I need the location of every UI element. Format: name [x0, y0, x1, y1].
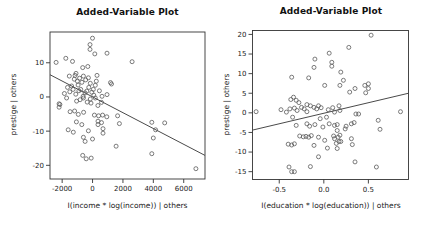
- scatter-point: [353, 160, 357, 164]
- x-tick-label: -0.5: [272, 186, 286, 194]
- scatter-point: [369, 33, 373, 37]
- scatter-point: [71, 130, 75, 134]
- scatter-point: [105, 115, 109, 119]
- y-tick-label: -10: [235, 148, 246, 156]
- scatter-point: [86, 76, 90, 80]
- scatter-point: [366, 82, 370, 86]
- scatter-point: [305, 110, 309, 114]
- y-tick-label: -20: [33, 162, 44, 170]
- scatter-point: [312, 65, 316, 69]
- scatter-point: [84, 157, 88, 161]
- y-tick-label: 5: [242, 90, 246, 98]
- scatter-point: [332, 134, 336, 138]
- scatter-point: [292, 170, 296, 174]
- scatter-point: [335, 147, 339, 151]
- scatter-point: [94, 79, 98, 83]
- scatter-point: [347, 45, 351, 49]
- x-tick-label: 0.5: [363, 186, 374, 194]
- scatter-point: [399, 110, 403, 114]
- scatter-point: [333, 137, 337, 141]
- scatter-point: [307, 76, 311, 80]
- x-tick-label: -2000: [52, 185, 72, 193]
- x-tick-label: 4000: [144, 185, 162, 193]
- x-tick-label: 0.0: [318, 186, 329, 194]
- scatter-point: [89, 156, 93, 160]
- left-x-axis-label: I(income * log(income)) | others: [50, 201, 205, 210]
- scatter-point: [318, 117, 322, 121]
- scatter-point: [313, 57, 317, 61]
- scatter-point: [327, 122, 331, 126]
- scatter-point: [378, 127, 382, 131]
- scatter-point: [83, 139, 87, 143]
- scatter-point: [150, 152, 154, 156]
- scatter-point: [76, 112, 80, 116]
- scatter-point: [357, 112, 361, 116]
- scatter-point: [294, 98, 298, 102]
- scatter-point: [317, 135, 321, 139]
- scatter-point: [330, 60, 334, 64]
- added-variable-plots-figure: -20000200040006000-20-10010-0.50.00.5-15…: [0, 0, 426, 232]
- scatter-point: [312, 143, 316, 147]
- scatter-point: [254, 110, 258, 114]
- scatter-point: [97, 89, 101, 93]
- left-chart-title: Added-Variable Plot: [50, 7, 205, 17]
- scatter-point: [105, 93, 109, 97]
- scatter-point: [297, 101, 301, 105]
- right-avplot: -0.50.00.5-15-10-505101520: [235, 31, 408, 194]
- scatter-point: [321, 125, 325, 129]
- scatter-point: [81, 153, 85, 157]
- y-tick-label: 10: [238, 70, 247, 78]
- scatter-point: [325, 115, 329, 119]
- scatter-point: [333, 123, 337, 127]
- scatter-point: [323, 83, 327, 87]
- y-tick-label: 0: [40, 93, 44, 101]
- scatter-point: [64, 56, 68, 60]
- scatter-point: [327, 51, 331, 55]
- right-y-axis-label: prestige | others: [222, 60, 231, 150]
- scatter-point: [114, 144, 118, 148]
- scatter-point: [313, 123, 317, 127]
- scatter-point: [376, 118, 380, 122]
- scatter-point: [86, 129, 90, 133]
- scatter-point: [81, 74, 85, 78]
- scatter-point: [62, 92, 66, 96]
- scatter-point: [100, 94, 104, 98]
- scatter-point: [335, 129, 339, 133]
- scatter-point: [364, 91, 368, 95]
- y-tick-label: 0: [242, 109, 246, 117]
- scatter-point: [289, 98, 293, 102]
- scatter-point: [92, 113, 96, 117]
- scatter-point: [317, 155, 321, 159]
- y-tick-label: -5: [240, 129, 247, 137]
- scatter-point: [335, 123, 339, 127]
- scatter-point: [330, 64, 334, 68]
- scatter-point: [101, 113, 105, 117]
- scatter-point: [344, 124, 348, 128]
- scatter-point: [66, 128, 70, 132]
- plot-box: [50, 32, 205, 179]
- scatter-point: [284, 110, 288, 114]
- scatter-point: [89, 101, 93, 105]
- scatter-point: [88, 81, 92, 85]
- scatter-point: [194, 167, 198, 171]
- plot-box: [253, 31, 409, 180]
- scatter-point: [97, 114, 101, 118]
- scatter-point: [67, 74, 71, 78]
- scatter-point: [341, 78, 345, 82]
- scatter-point: [331, 106, 335, 110]
- scatter-point: [150, 120, 154, 124]
- right-chart-title: Added-Variable Plot: [253, 6, 409, 16]
- scatter-point: [304, 134, 308, 138]
- scatter-point: [287, 165, 291, 169]
- scatter-point: [294, 123, 298, 127]
- scatter-point: [374, 165, 378, 169]
- scatter-point: [93, 52, 97, 56]
- regression-line: [253, 93, 409, 130]
- y-tick-label: -10: [33, 128, 44, 136]
- scatter-point: [291, 115, 295, 119]
- scatter-point: [348, 90, 352, 94]
- y-tick-label: 15: [238, 50, 247, 58]
- scatter-point: [91, 137, 95, 141]
- scatter-point: [81, 135, 85, 139]
- scatter-point: [290, 75, 294, 79]
